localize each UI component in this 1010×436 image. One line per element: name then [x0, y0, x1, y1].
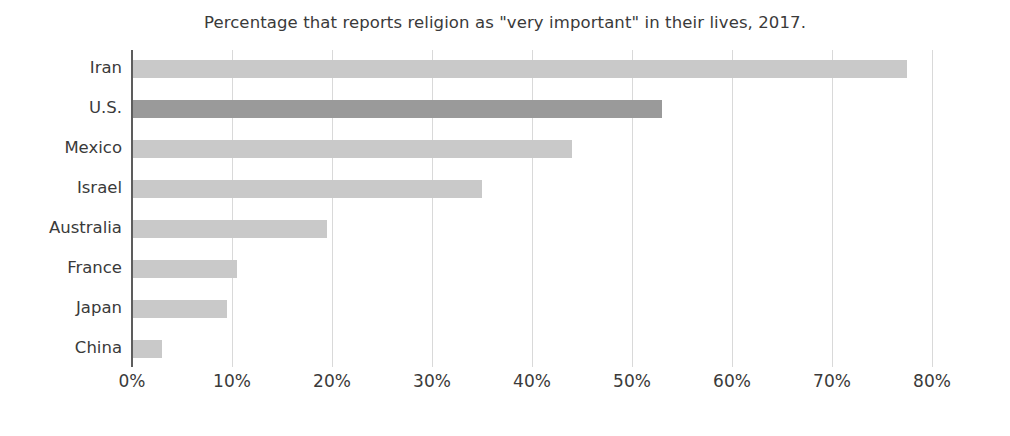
chart-title: Percentage that reports religion as "ver…	[0, 13, 1010, 32]
x-tick-label-50pct: 50%	[587, 371, 677, 391]
gridline	[932, 50, 933, 367]
x-axis-tick-labels: 0%10%20%30%40%50%60%70%80%	[0, 371, 1010, 411]
bar-chart: Percentage that reports religion as "ver…	[0, 0, 1010, 436]
y-axis-label-israel: Israel	[0, 178, 122, 197]
gridline	[832, 50, 833, 367]
gridline	[232, 50, 233, 367]
bar-mexico	[132, 140, 572, 158]
x-tick-label-30pct: 30%	[387, 371, 477, 391]
y-axis-label-japan: Japan	[0, 298, 122, 317]
x-tick-label-0pct: 0%	[87, 371, 177, 391]
x-tick-label-20pct: 20%	[287, 371, 377, 391]
y-axis-label-mexico: Mexico	[0, 138, 122, 157]
y-axis-label-australia: Australia	[0, 218, 122, 237]
gridline	[432, 50, 433, 367]
x-tick-label-70pct: 70%	[787, 371, 877, 391]
y-axis-label-u-s: U.S.	[0, 98, 122, 117]
gridline	[532, 50, 533, 367]
bar-israel	[132, 180, 482, 198]
gridline	[332, 50, 333, 367]
bar-u-s	[132, 100, 662, 118]
y-axis-label-iran: Iran	[0, 58, 122, 77]
gridline	[732, 50, 733, 367]
y-axis-label-france: France	[0, 258, 122, 277]
bar-japan	[132, 300, 227, 318]
x-tick-label-40pct: 40%	[487, 371, 577, 391]
y-axis-tick-labels: IranU.S.MexicoIsraelAustraliaFranceJapan…	[0, 50, 122, 367]
bar-iran	[132, 60, 907, 78]
x-tick-label-10pct: 10%	[187, 371, 277, 391]
bar-france	[132, 260, 237, 278]
y-axis-line	[131, 50, 133, 367]
bar-australia	[132, 220, 327, 238]
x-tick-label-60pct: 60%	[687, 371, 777, 391]
x-tick-label-80pct: 80%	[887, 371, 977, 391]
gridline	[632, 50, 633, 367]
plot-area	[132, 50, 932, 367]
y-axis-label-china: China	[0, 338, 122, 357]
bar-china	[132, 340, 162, 358]
